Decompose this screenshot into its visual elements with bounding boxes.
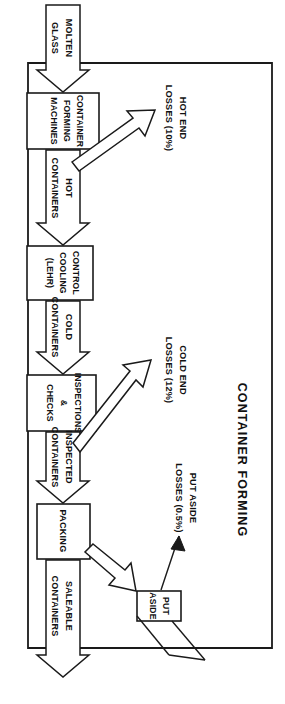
inspections-label-line3: CHECKS <box>45 384 55 422</box>
forming-label-line1: CONTAINER <box>75 95 85 148</box>
molten-glass-label-line1: MOLTEN <box>64 19 74 58</box>
put-aside-label-line1: PUT <box>161 597 171 615</box>
cold-containers-label-line2: CONTAINERS <box>50 297 60 358</box>
lehr-label-line3: (LEHR) <box>45 258 55 288</box>
hot-containers-label-line2: CONTAINERS <box>50 158 60 219</box>
hot-end-losses-label-line2: LOSSES (10%) <box>164 85 174 152</box>
put-aside-label-line2: ASIDE <box>148 592 158 619</box>
inspections-label-line1: INSPECTIONS <box>73 373 83 434</box>
box-put-aside[interactable] <box>137 591 181 621</box>
put-aside-divert-arrow <box>85 544 136 591</box>
saleable-containers-arrow <box>37 560 89 677</box>
saleable-containers-label-line2: CONTAINERS <box>50 576 60 637</box>
cold-containers-label-line1: COLD <box>64 314 74 341</box>
rotated-canvas: MOLTEN GLASS CONTAINER FORMING MACHINES … <box>0 0 285 704</box>
lehr-label-line1: CONTROL <box>71 251 81 295</box>
inspections-label-line2: & <box>59 400 69 406</box>
inspected-containers-label-line2: CONTAINERS <box>50 427 60 488</box>
put-aside-losses-arrowhead <box>171 536 185 551</box>
put-aside-losses-label-line2: LOSSES (0.5%) <box>174 463 184 532</box>
hot-end-losses-label-line1: HOT END <box>178 97 188 140</box>
inspected-containers-label-line1: INSPECTED <box>64 430 74 484</box>
saleable-containers-label-line1: SALEABLE <box>64 581 74 631</box>
molten-glass-label-line2: GLASS <box>50 22 60 54</box>
diagram-title: CONTAINER FORMING <box>235 383 249 538</box>
molten-glass-input-arrow <box>37 5 89 92</box>
forming-label-line3: MACHINES <box>49 97 59 145</box>
diagram-page: MOLTEN GLASS CONTAINER FORMING MACHINES … <box>0 0 285 704</box>
packing-label: PACKING <box>58 509 68 552</box>
cold-end-losses-label-line2: LOSSES (12%) <box>164 337 174 404</box>
lehr-label-line2: COOLING <box>58 252 68 294</box>
put-aside-losses-arrow <box>161 536 185 590</box>
forming-label-line2: FORMING <box>62 100 72 142</box>
cold-containers-arrow <box>37 301 89 374</box>
cold-end-losses-label-line1: COLD END <box>178 345 188 395</box>
put-aside-return-line <box>137 616 205 660</box>
container-forming-flow-diagram: MOLTEN GLASS CONTAINER FORMING MACHINES … <box>0 0 285 704</box>
put-aside-losses-label-line1: PUT ASIDE <box>188 473 198 523</box>
hot-containers-label-line1: HOT <box>64 178 74 198</box>
